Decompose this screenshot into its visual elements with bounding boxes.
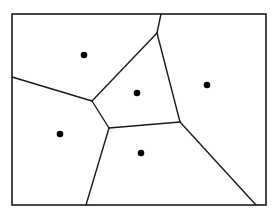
site-top-left-point [81, 52, 88, 59]
voronoi-edge [12, 77, 92, 101]
voronoi-edge [86, 128, 109, 205]
site-center-point [134, 90, 141, 97]
site-right-point [204, 82, 211, 89]
voronoi-edge [157, 33, 180, 122]
voronoi-diagram [0, 0, 276, 215]
voronoi-edge [92, 33, 157, 101]
site-bottom-left-point [57, 131, 64, 138]
voronoi-edge [109, 122, 180, 128]
voronoi-edge [180, 122, 256, 205]
site-bottom-center-point [138, 150, 145, 157]
diagram-border [12, 14, 266, 205]
voronoi-sites [57, 52, 211, 157]
voronoi-edges [12, 14, 256, 205]
voronoi-edge [157, 14, 161, 33]
voronoi-edge [92, 101, 109, 128]
